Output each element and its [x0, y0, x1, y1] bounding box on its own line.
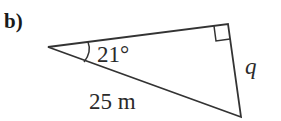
- hypotenuse-label: 25 m: [89, 89, 136, 114]
- part-label: b): [4, 9, 23, 33]
- triangle: [48, 24, 241, 117]
- angle-label: 21°: [97, 42, 129, 67]
- angle-arc: [84, 42, 89, 62]
- triangle-diagram: b) 21° 25 m q: [0, 0, 281, 121]
- right-angle-marker: [214, 26, 230, 41]
- side-q-label: q: [245, 54, 257, 79]
